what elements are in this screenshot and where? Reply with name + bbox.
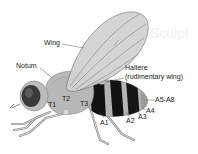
label-a5-a8: A5-A8 xyxy=(155,96,175,103)
foreleg xyxy=(12,112,50,130)
label-haltere: Haltere xyxy=(125,64,148,71)
label-a2: A2 xyxy=(126,117,135,124)
label-t3: T3 xyxy=(80,100,88,107)
label-a1: A1 xyxy=(100,119,109,126)
label-wing: Wing xyxy=(44,39,60,47)
fly-diagram: Sculpt xyxy=(0,0,198,154)
antenna xyxy=(10,104,20,108)
label-haltere-subtitle: (rudimentary wing) xyxy=(125,73,183,81)
head xyxy=(10,81,48,111)
label-t2: T2 xyxy=(62,95,70,102)
label-t1: T1 xyxy=(48,101,56,108)
midleg xyxy=(20,114,62,136)
background-ghost-text: Sculpt xyxy=(150,25,189,41)
label-notum: Notum xyxy=(16,62,37,69)
label-a4: A4 xyxy=(146,107,155,114)
label-a3: A3 xyxy=(138,113,147,120)
